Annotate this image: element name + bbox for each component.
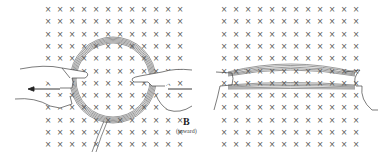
field-into-page-symbol: × xyxy=(281,91,288,100)
field-into-page-symbol: × xyxy=(233,91,240,100)
field-into-page-symbol: × xyxy=(233,128,240,137)
field-into-page-symbol: × xyxy=(153,5,160,14)
field-into-page-symbol: × xyxy=(329,91,336,100)
field-into-page-symbol: × xyxy=(105,17,112,26)
field-into-page-symbol: × xyxy=(129,5,136,14)
field-into-page-symbol: × xyxy=(153,54,160,63)
field-into-page-symbol: × xyxy=(165,54,172,63)
field-into-page-symbol: × xyxy=(257,17,264,26)
field-into-page-symbol: × xyxy=(93,5,100,14)
field-into-page-symbol: × xyxy=(341,30,348,39)
field-into-page-symbol: × xyxy=(353,128,360,137)
field-into-page-symbol: × xyxy=(129,67,136,76)
flattened-loop xyxy=(228,64,355,89)
field-into-page-symbol: × xyxy=(305,30,312,39)
field-into-page-symbol: × xyxy=(165,116,172,125)
field-into-page-symbol: × xyxy=(317,140,324,149)
field-into-page-symbol: × xyxy=(329,30,336,39)
field-into-page-symbol: × xyxy=(117,140,124,149)
field-into-page-symbol: × xyxy=(281,79,288,88)
field-into-page-symbol: × xyxy=(129,91,136,100)
field-into-page-symbol: × xyxy=(341,5,348,14)
field-into-page-symbol: × xyxy=(269,5,276,14)
field-into-page-symbol: × xyxy=(45,116,52,125)
field-into-page-symbol: × xyxy=(45,5,52,14)
field-into-page-symbol: × xyxy=(329,42,336,51)
field-into-page-symbol: × xyxy=(353,5,360,14)
field-into-page-symbol: × xyxy=(177,42,184,51)
field-into-page-symbol: × xyxy=(341,128,348,137)
field-into-page-symbol: × xyxy=(57,54,64,63)
field-into-page-symbol: × xyxy=(81,30,88,39)
field-into-page-symbol: × xyxy=(221,54,228,63)
field-into-page-symbol: × xyxy=(257,5,264,14)
field-into-page-symbol: × xyxy=(353,30,360,39)
field-into-page-symbol: × xyxy=(341,17,348,26)
field-into-page-symbol: × xyxy=(93,17,100,26)
field-into-page-symbol: × xyxy=(293,30,300,39)
field-into-page-symbol: × xyxy=(353,116,360,125)
field-into-page-symbol: × xyxy=(341,91,348,100)
field-into-page-symbol: × xyxy=(233,17,240,26)
field-into-page-symbol: × xyxy=(57,5,64,14)
field-into-page-symbol: × xyxy=(117,5,124,14)
field-into-page-symbol: × xyxy=(305,54,312,63)
field-into-page-symbol: × xyxy=(317,103,324,112)
field-into-page-symbol: × xyxy=(69,42,76,51)
field-into-page-symbol: × xyxy=(245,30,252,39)
field-into-page-symbol: × xyxy=(245,42,252,51)
field-into-page-symbol: × xyxy=(45,54,52,63)
field-into-page-symbol: × xyxy=(293,79,300,88)
field-into-page-symbol: × xyxy=(153,17,160,26)
field-into-page-symbol: × xyxy=(221,42,228,51)
field-into-page-symbol: × xyxy=(341,42,348,51)
field-into-page-symbol: × xyxy=(317,42,324,51)
field-into-page-symbol: × xyxy=(45,17,52,26)
field-into-page-symbol: × xyxy=(293,116,300,125)
field-direction-note: (inward) xyxy=(176,128,197,134)
field-into-page-symbol: × xyxy=(341,54,348,63)
field-into-page-symbol: × xyxy=(233,54,240,63)
field-into-page-symbol: × xyxy=(317,30,324,39)
field-into-page-symbol: × xyxy=(269,140,276,149)
field-into-page-symbol: × xyxy=(141,30,148,39)
field-into-page-symbol: × xyxy=(293,5,300,14)
field-into-page-symbol: × xyxy=(117,103,124,112)
field-into-page-symbol: × xyxy=(81,5,88,14)
field-into-page-symbol: × xyxy=(305,116,312,125)
field-into-page-symbol: × xyxy=(233,30,240,39)
field-into-page-symbol: × xyxy=(245,116,252,125)
field-into-page-symbol: × xyxy=(93,67,100,76)
field-into-page-symbol: × xyxy=(141,5,148,14)
field-into-page-symbol: × xyxy=(81,79,88,88)
field-into-page-symbol: × xyxy=(329,116,336,125)
field-into-page-symbol: × xyxy=(305,91,312,100)
field-into-page-symbol: × xyxy=(93,79,100,88)
field-into-page-symbol: × xyxy=(69,116,76,125)
field-into-page-symbol: × xyxy=(69,5,76,14)
field-into-page-symbol: × xyxy=(317,54,324,63)
field-into-page-symbol: × xyxy=(245,54,252,63)
field-into-page-symbol: × xyxy=(233,116,240,125)
field-into-page-symbol: × xyxy=(329,5,336,14)
field-into-page-symbol: × xyxy=(117,67,124,76)
field-into-page-symbol: × xyxy=(105,54,112,63)
field-into-page-symbol: × xyxy=(221,17,228,26)
field-into-page-symbol: × xyxy=(57,17,64,26)
field-into-page-symbol: × xyxy=(129,140,136,149)
field-into-page-symbol: × xyxy=(293,54,300,63)
field-into-page-symbol: × xyxy=(177,54,184,63)
field-into-page-symbol: × xyxy=(45,30,52,39)
field-into-page-symbol: × xyxy=(293,103,300,112)
field-into-page-symbol: × xyxy=(257,128,264,137)
field-into-page-symbol: × xyxy=(341,116,348,125)
field-into-page-symbol: × xyxy=(257,30,264,39)
field-into-page-symbol: × xyxy=(353,79,360,88)
field-into-page-symbol: × xyxy=(221,116,228,125)
field-label-b: B xyxy=(183,116,190,127)
field-into-page-symbol: × xyxy=(105,103,112,112)
field-into-page-symbol: × xyxy=(221,128,228,137)
field-into-page-symbol: × xyxy=(45,140,52,149)
field-into-page-symbol: × xyxy=(177,17,184,26)
field-into-page-symbol: × xyxy=(329,103,336,112)
